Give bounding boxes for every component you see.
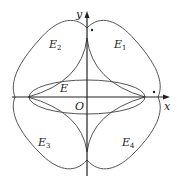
region-label-E1: E1 — [113, 38, 127, 52]
region-label-E: E — [59, 82, 68, 95]
y-axis-label: y — [75, 8, 83, 21]
x-axis-label: x — [164, 100, 171, 113]
lobe-E1 — [87, 20, 160, 97]
y-axis-arrow-icon — [85, 11, 90, 18]
point-marker-top — [91, 29, 93, 31]
diagram-figure: y x O E E1 E2 E3 E4 — [0, 0, 181, 180]
x-axis-arrow-icon — [163, 95, 170, 100]
point-marker-right — [153, 91, 155, 93]
region-label-E3: E3 — [37, 136, 51, 150]
lobe-E2 — [13, 20, 87, 97]
lobe-E4 — [87, 97, 160, 169]
region-label-E2: E2 — [48, 38, 62, 52]
region-label-E4: E4 — [121, 136, 135, 150]
origin-label: O — [75, 100, 84, 113]
